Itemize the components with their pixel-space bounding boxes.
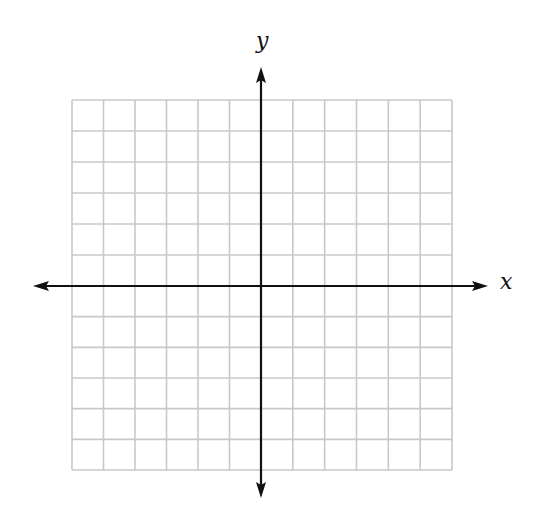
y-axis-label: y — [256, 30, 268, 52]
coordinate-plane — [0, 0, 537, 520]
x-axis-label: x — [500, 271, 512, 293]
